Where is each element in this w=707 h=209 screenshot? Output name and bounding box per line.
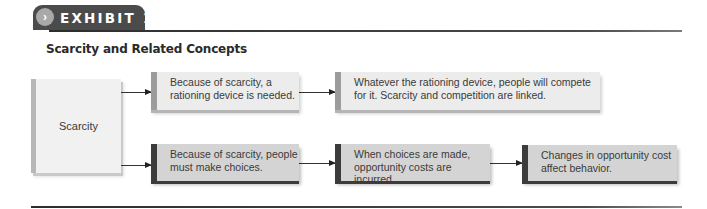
arrow-costs-to-behavior: [490, 163, 522, 164]
arrow-rationing-to-competition: [299, 92, 335, 93]
node-text-line: must make choices.: [170, 161, 299, 174]
node-text-line: Whatever the rationing device, people wi…: [354, 76, 600, 89]
node-text-line: rationing device is needed.: [170, 89, 299, 102]
chevron-right-icon: ›: [36, 8, 54, 26]
node-text-line: for it. Scarcity and competition are lin…: [354, 89, 600, 102]
arrow-scarcity-to-choices: [121, 165, 151, 166]
arrow-choices-to-opportunity-costs: [299, 163, 335, 164]
node-text-line: Because of scarcity, people: [170, 148, 299, 161]
node-opportunity-costs: When choices are made, opportunity costs…: [335, 144, 490, 181]
footer-rule: [31, 206, 682, 208]
node-rationing-device: Because of scarcity, a rationing device …: [151, 72, 299, 110]
exhibit-label: EXHIBIT 1: [60, 8, 154, 28]
arrow-scarcity-to-rationing: [121, 92, 151, 93]
node-affect-behavior: Changes in opportunity cost affect behav…: [522, 145, 677, 181]
node-text-line: When choices are made,: [354, 148, 490, 161]
node-text-line: Because of scarcity, a: [170, 76, 299, 89]
node-scarcity-label: Scarcity: [31, 79, 121, 173]
node-text-line: affect behavior.: [541, 162, 677, 175]
node-text-line: Changes in opportunity cost: [541, 149, 677, 162]
node-make-choices: Because of scarcity, people must make ch…: [151, 144, 299, 181]
diagram-title: Scarcity and Related Concepts: [46, 42, 247, 56]
header-rule: [49, 30, 682, 32]
node-competition: Whatever the rationing device, people wi…: [335, 72, 600, 110]
node-text-line: opportunity costs are incurred.: [354, 161, 490, 186]
